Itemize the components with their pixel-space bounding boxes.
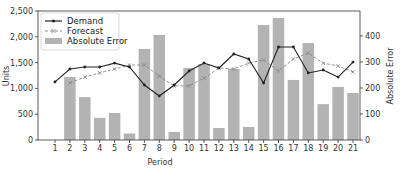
x-tick-label: 16 (273, 144, 283, 153)
demand-point (69, 68, 72, 71)
error-bar (168, 132, 180, 140)
right-y-axis-ticks: 0100200300400 (360, 32, 380, 145)
demand-point (98, 66, 101, 69)
error-bar (94, 118, 106, 140)
legend-label-demand: Demand (67, 16, 103, 26)
demand-point (247, 58, 250, 61)
left-y-axis-ticks: 05001,0001,5002,0002,500 (10, 7, 38, 145)
demand-point (173, 84, 176, 87)
demand-point (292, 46, 295, 49)
error-bar (228, 69, 240, 140)
demand-point (352, 61, 355, 64)
x-tick-label: 8 (157, 144, 162, 153)
x-axis-label: Period (148, 158, 173, 167)
error-bar (64, 77, 76, 140)
error-bar (183, 68, 195, 140)
error-bar (124, 133, 136, 140)
x-tick-label: 18 (303, 144, 313, 153)
error-bar (288, 80, 300, 140)
y-tick-label: 2,500 (10, 7, 33, 16)
y2-axis-label: Absolute Error (386, 47, 395, 105)
demand-point (307, 72, 310, 75)
error-bar (243, 127, 255, 140)
x-tick-label: 14 (244, 144, 254, 153)
chart-canvas: 05001,0001,5002,0002,500 0100200300400 1… (0, 0, 404, 171)
y2-tick-label: 100 (365, 110, 380, 119)
demand-point (277, 46, 280, 49)
demand-point (54, 81, 57, 84)
demand-point (322, 69, 325, 72)
x-tick-label: 4 (97, 144, 102, 153)
y-tick-label: 1,500 (10, 59, 33, 68)
y-tick-label: 0 (28, 136, 33, 145)
y2-tick-label: 200 (365, 84, 380, 93)
error-bar (347, 93, 359, 140)
demand-point (83, 66, 86, 69)
error-bar (139, 49, 151, 140)
bar-swatch-icon (45, 38, 62, 44)
y-tick-label: 1,000 (10, 84, 33, 93)
x-tick-label: 11 (199, 144, 209, 153)
y2-tick-label: 300 (365, 58, 380, 67)
x-tick-label: 5 (112, 144, 117, 153)
legend: Demand Forecast Absolute Error (41, 13, 128, 50)
x-tick-label: 2 (67, 144, 72, 153)
x-tick-label: 7 (142, 144, 147, 153)
y2-tick-label: 0 (365, 136, 370, 145)
demand-point (113, 62, 116, 65)
demand-point (143, 84, 146, 87)
x-tick-label: 1 (52, 144, 57, 153)
y-tick-label: 2,000 (10, 33, 33, 42)
error-bar (79, 97, 91, 140)
x-tick-label: 20 (333, 144, 343, 153)
demand-point (158, 95, 161, 98)
demand-marker-icon (52, 20, 55, 23)
y-tick-label: 500 (18, 110, 33, 119)
y-axis-label: Units (2, 66, 11, 86)
x-tick-label: 15 (259, 144, 269, 153)
error-bar (317, 104, 329, 140)
error-bar (109, 113, 121, 140)
x-tick-label: 9 (172, 144, 177, 153)
x-tick-label: 10 (184, 144, 194, 153)
demand-point (337, 76, 340, 79)
error-bar (303, 43, 315, 140)
x-tick-label: 3 (82, 144, 87, 153)
error-bar (273, 18, 285, 140)
forecast-point (351, 70, 355, 74)
x-axis-ticks: 123456789101112131415161718192021 (52, 140, 358, 153)
demand-point (218, 67, 221, 70)
demand-point (128, 66, 131, 69)
x-tick-label: 19 (318, 144, 328, 153)
demand-point (203, 62, 206, 65)
demand-point (188, 70, 191, 73)
demand-point (232, 53, 235, 56)
x-tick-label: 21 (348, 144, 358, 153)
legend-label-forecast: Forecast (67, 26, 104, 36)
x-tick-label: 12 (214, 144, 224, 153)
error-bar (213, 128, 225, 140)
legend-label-absolute-error: Absolute Error (67, 36, 128, 46)
error-bar (332, 87, 344, 140)
forecast-point (292, 57, 296, 61)
y2-tick-label: 400 (365, 32, 380, 41)
x-tick-label: 6 (127, 144, 132, 153)
error-bar (154, 35, 166, 140)
x-tick-label: 13 (229, 144, 239, 153)
demand-point (262, 82, 265, 85)
x-tick-label: 17 (288, 144, 298, 153)
